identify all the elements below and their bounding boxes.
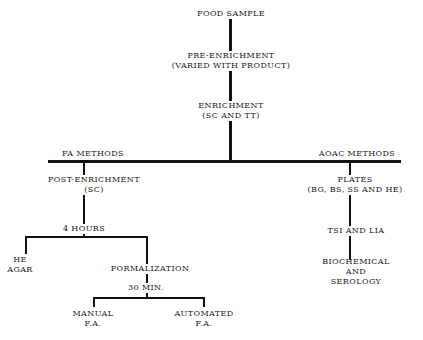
automated-fa-label: F.A.	[174, 319, 233, 329]
node-food-sample: FOOD SAMPLE	[197, 9, 265, 19]
node-manual-fa: MANUAL F.A.	[73, 309, 114, 329]
node-enrichment: ENRICHMENT (SC AND TT)	[198, 101, 264, 121]
connector-food-to-enrichment	[229, 16, 232, 162]
and-label: AND	[322, 267, 390, 277]
node-aoac-methods: AOAC METHODS	[319, 149, 395, 159]
pre-enrichment-title: PRE-ENRICHMENT	[172, 51, 290, 61]
connector-4hours-split	[25, 236, 148, 238]
serology-label: SEROLOGY	[322, 277, 390, 287]
node-biochemical-serology: BIOCHEMICAL AND SEROLOGY	[322, 257, 390, 287]
post-enrichment-note: (SC)	[48, 185, 140, 195]
enrichment-title: ENRICHMENT	[198, 101, 264, 111]
connector-to-he-agar	[25, 236, 27, 254]
manual-label: MANUAL	[73, 309, 114, 319]
plates-note: (BG, BS, SS AND HE)	[307, 185, 402, 195]
connector-to-automated	[203, 297, 205, 307]
pre-enrichment-note: (VARIED WITH PRODUCT)	[172, 61, 290, 71]
node-automated-fa: AUTOMATED F.A.	[174, 309, 233, 329]
manual-fa-label: F.A.	[73, 319, 114, 329]
node-fa-methods: FA METHODS	[62, 149, 124, 159]
node-4-hours: 4 HOURS	[63, 224, 105, 234]
node-formalization: FORMALIZATION	[111, 264, 190, 274]
enrichment-note: (SC AND TT)	[198, 111, 264, 121]
node-tsi-lia: TSI AND LIA	[328, 226, 385, 236]
node-pre-enrichment: PRE-ENRICHMENT (VARIED WITH PRODUCT)	[172, 51, 290, 71]
automated-label: AUTOMATED	[174, 309, 233, 319]
node-plates: PLATES (BG, BS, SS AND HE)	[307, 175, 402, 195]
node-30-min: 30 MIN.	[128, 283, 164, 293]
post-enrichment-title: POST-ENRICHMENT	[48, 175, 140, 185]
node-he-agar: HE AGAR	[7, 255, 33, 275]
biochemical-label: BIOCHEMICAL	[322, 257, 390, 267]
agar-label: AGAR	[7, 265, 33, 275]
plates-title: PLATES	[307, 175, 402, 185]
connector-30min-split	[93, 297, 205, 299]
he-label: HE	[7, 255, 33, 265]
node-post-enrichment: POST-ENRICHMENT (SC)	[48, 175, 140, 195]
connector-to-manual	[93, 297, 95, 307]
